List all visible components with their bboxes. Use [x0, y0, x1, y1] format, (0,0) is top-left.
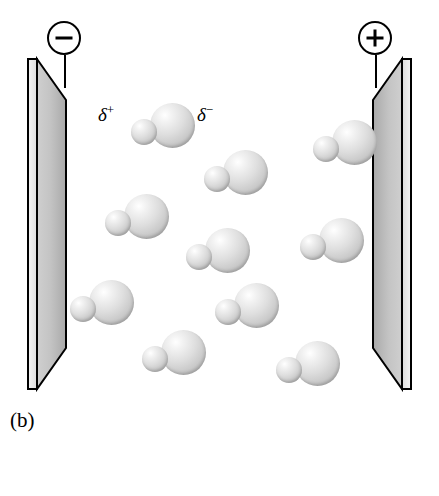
hydrogen-atom — [186, 244, 212, 270]
hydrogen-atom — [313, 136, 339, 162]
left-plate — [26, 58, 90, 390]
fluorine-atom — [223, 150, 268, 195]
delta-minus-sign: − — [206, 102, 213, 117]
hydrogen-atom — [131, 119, 157, 145]
hydrogen-atom — [70, 296, 96, 322]
hydrogen-atom — [276, 357, 302, 383]
fluorine-atom — [234, 283, 279, 328]
delta-plus-sign: + — [107, 102, 114, 117]
positive-terminal — [358, 21, 392, 55]
fluorine-atom — [295, 341, 340, 386]
fluorine-atom — [89, 280, 134, 325]
minus-icon — [56, 37, 73, 40]
figure-panel-b: δ+ δ− (b) H F — [0, 0, 439, 496]
hydrogen-atom — [300, 234, 326, 260]
delta-minus-text: δ — [197, 104, 206, 125]
negative-terminal — [47, 21, 81, 55]
panel-label: (b) — [10, 408, 35, 433]
plus-icon-vertical — [374, 30, 377, 47]
hydrogen-atom — [142, 346, 168, 372]
fluorine-atom — [205, 228, 250, 273]
delta-plus-text: δ — [98, 104, 107, 125]
fluorine-atom — [161, 330, 206, 375]
fluorine-atom — [332, 120, 377, 165]
fluorine-atom — [319, 218, 364, 263]
legend: H F — [0, 462, 439, 496]
fluorine-atom — [150, 103, 195, 148]
delta-plus-label: δ+ — [98, 103, 114, 124]
fluorine-atom — [124, 194, 169, 239]
right-plate — [349, 58, 413, 390]
hydrogen-atom — [204, 166, 230, 192]
hydrogen-atom — [215, 299, 241, 325]
delta-minus-label: δ− — [197, 103, 213, 124]
hydrogen-atom — [105, 210, 131, 236]
